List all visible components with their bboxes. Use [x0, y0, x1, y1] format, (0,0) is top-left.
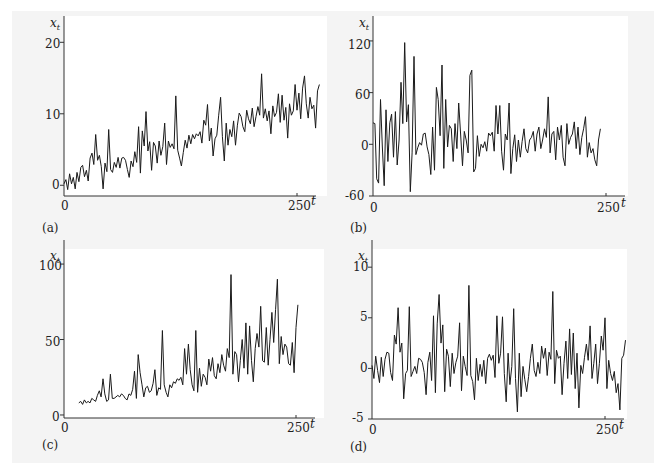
chart-svg	[0, 0, 666, 475]
series-line	[372, 285, 626, 412]
y-tick-label: 0	[360, 361, 368, 375]
x-tick-label: 0	[369, 423, 377, 437]
x-axis-label: t	[619, 418, 624, 432]
panel-label: (d)	[350, 440, 367, 454]
y-tick-label: 10	[353, 260, 368, 274]
y-tick-label: 5	[360, 310, 368, 324]
x-tick-label: 250	[596, 423, 619, 437]
panel-d: xt 10 5 0 -5 0 250 t (d)	[0, 0, 666, 475]
y-tick-label: -5	[352, 411, 364, 425]
